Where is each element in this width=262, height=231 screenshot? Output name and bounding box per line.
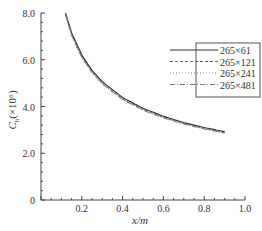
x-tick-label: 0.8 (198, 203, 211, 214)
y-tick-label: 6.0 (23, 55, 36, 66)
y-axis-label: Ch(×10⁶) (6, 90, 21, 130)
legend: 265×61265×121265×241265×481 (170, 43, 260, 97)
y-tick-label: 0 (30, 195, 35, 206)
x-tick-label: 0.4 (116, 203, 129, 214)
y-tick-label: 2.0 (23, 148, 36, 159)
legend-label: 265×121 (220, 57, 256, 68)
legend-label: 265×481 (220, 80, 256, 91)
axes (41, 13, 245, 200)
chart: 0.20.40.60.81.002.04.06.08.0 265×61265×1… (0, 0, 262, 231)
x-tick-label: 1.0 (239, 203, 252, 214)
legend-label: 265×61 (220, 45, 251, 56)
x-axis-label: x/m (131, 214, 148, 226)
legend-label: 265×241 (220, 68, 256, 79)
y-tick-label: 8.0 (23, 8, 36, 19)
x-tick-label: 0.6 (157, 203, 170, 214)
svg-text:Ch(×10⁶): Ch(×10⁶) (6, 90, 21, 130)
x-tick-label: 0.2 (76, 203, 89, 214)
y-tick-label: 4.0 (23, 102, 36, 113)
